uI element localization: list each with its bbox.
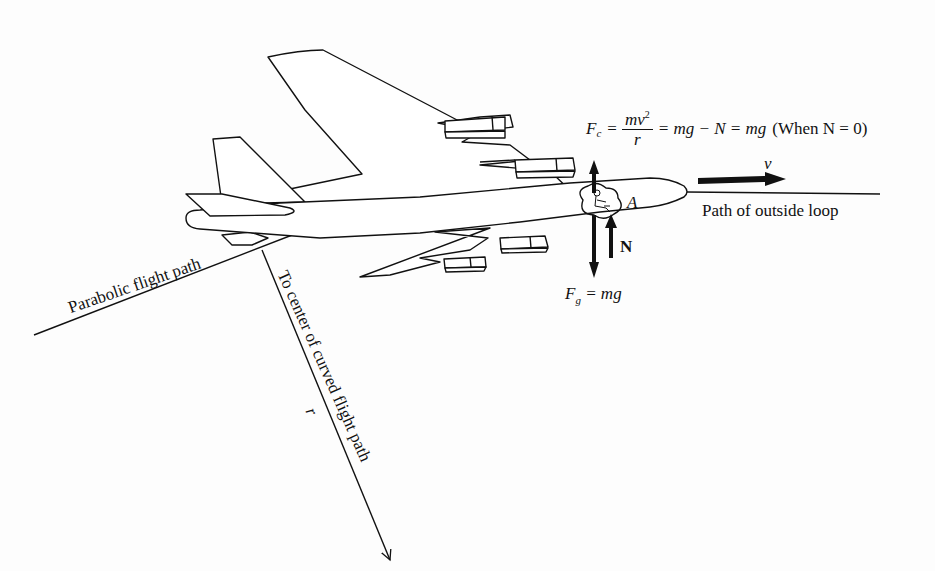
gravity-force-arrow xyxy=(589,215,599,278)
lower-engine-outer xyxy=(444,257,486,272)
fg-rhs: = mg xyxy=(585,284,622,303)
fraction-exponent: 2 xyxy=(645,109,650,120)
gravity-force-label: Fg = mg xyxy=(565,285,622,302)
diagram-canvas: Fc = mv2 r = mg − N = mg (When N = 0) v … xyxy=(0,0,935,571)
lower-engine-inner xyxy=(500,236,548,253)
fg-subscript: g xyxy=(575,294,581,306)
outside-loop-path-line xyxy=(687,192,880,194)
equals-sign: = xyxy=(607,120,617,137)
equation-condition: (When N = 0) xyxy=(772,120,867,137)
velocity-label: v xyxy=(764,155,772,172)
normal-force-label: N xyxy=(620,238,632,255)
fraction-denominator: r xyxy=(634,130,641,148)
equation-rest: = mg − N = mg xyxy=(658,120,767,137)
radius-line xyxy=(262,250,390,560)
normal-force-arrow xyxy=(605,214,617,258)
upper-wing xyxy=(268,50,580,203)
fc-symbol: F xyxy=(586,120,596,137)
velocity-arrow xyxy=(698,172,786,186)
tail-fin xyxy=(213,137,305,204)
fc-subscript: c xyxy=(596,128,601,139)
fg-symbol: F xyxy=(565,284,575,303)
fraction: mv2 r xyxy=(622,110,653,148)
point-a-label: A xyxy=(627,194,637,211)
outside-loop-path-label: Path of outside loop xyxy=(702,202,838,219)
centripetal-force-equation: Fc = mv2 r = mg − N = mg (When N = 0) xyxy=(586,110,867,148)
fraction-numerator: mv xyxy=(625,110,645,129)
